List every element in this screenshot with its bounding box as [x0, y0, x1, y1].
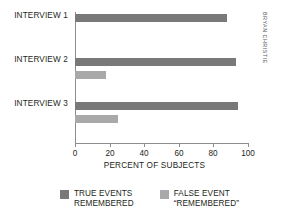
x-tick-label-20: 20 [105, 149, 114, 158]
legend-label-true-events: TRUE EVENTS REMEMBERED [74, 189, 134, 209]
x-tick-40 [144, 143, 145, 147]
x-tick-100 [248, 143, 249, 147]
legend-label-true-line2: REMEMBERED [74, 199, 134, 209]
bar-true-interview-1 [75, 14, 227, 22]
x-tick-60 [179, 143, 180, 147]
plot-area [75, 12, 248, 143]
chart-legend: TRUE EVENTS REMEMBERED FALSE EVENT “REME… [0, 189, 287, 209]
x-tick-label-40: 40 [139, 149, 148, 158]
x-tick-80 [213, 143, 214, 147]
legend-label-true-line1: TRUE EVENTS [74, 189, 134, 199]
x-tick-label-60: 60 [174, 149, 183, 158]
x-axis-line [75, 143, 248, 144]
legend-swatch-true-icon [60, 190, 69, 199]
chart-figure: INTERVIEW 1 INTERVIEW 2 INTERVIEW 3 0 20… [0, 0, 287, 215]
x-tick-0 [75, 143, 76, 147]
x-axis-title: PERCENT OF SUBJECTS [0, 161, 287, 170]
legend-item-true-events: TRUE EVENTS REMEMBERED [60, 189, 134, 209]
category-label-interview-3: INTERVIEW 3 [14, 99, 68, 108]
artist-credit: BRYAN CHRISTIE [262, 12, 268, 64]
x-tick-label-0: 0 [73, 149, 78, 158]
bar-false-interview-2 [75, 71, 106, 79]
category-label-interview-2: INTERVIEW 2 [14, 55, 68, 64]
x-tick-20 [110, 143, 111, 147]
bar-true-interview-2 [75, 58, 236, 66]
category-label-interview-1: INTERVIEW 1 [14, 11, 68, 20]
x-tick-label-100: 100 [241, 149, 255, 158]
legend-swatch-false-icon [160, 190, 169, 199]
x-tick-label-80: 80 [208, 149, 217, 158]
legend-label-false-line1: FALSE EVENT [174, 189, 239, 199]
legend-label-false-event: FALSE EVENT “REMEMBERED” [174, 189, 239, 209]
legend-item-false-event: FALSE EVENT “REMEMBERED” [160, 189, 239, 209]
legend-label-false-line2: “REMEMBERED” [174, 199, 239, 209]
bar-false-interview-3 [75, 115, 118, 123]
bar-true-interview-3 [75, 102, 238, 110]
